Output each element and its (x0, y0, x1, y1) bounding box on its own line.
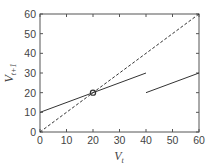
y-tick-label: 10 (24, 106, 36, 118)
map-solid-line (40, 73, 146, 112)
y-axis-ticks: 0102030405060 (24, 8, 199, 138)
x-tick-label: 40 (140, 134, 152, 146)
x-axis-label: Vt (114, 149, 124, 165)
chart-canvas: 0102030405060 0102030405060 Vt Vt+1 (0, 0, 208, 166)
y-tick-label: 50 (24, 28, 36, 40)
y-tick-label: 0 (30, 126, 36, 138)
y-axis-label: Vt+1 (2, 64, 18, 83)
y-tick-label: 60 (24, 8, 36, 20)
x-tick-label: 10 (61, 134, 73, 146)
x-tick-label: 30 (114, 134, 126, 146)
map-solid-line (146, 73, 199, 93)
x-tick-label: 0 (37, 134, 43, 146)
y-tick-label: 30 (24, 67, 36, 79)
x-tick-label: 60 (193, 134, 205, 146)
identity-dashed-line (40, 14, 199, 132)
y-tick-label: 20 (24, 87, 36, 99)
y-tick-label: 40 (24, 47, 36, 59)
plot-frame (40, 14, 199, 132)
x-tick-label: 50 (167, 134, 179, 146)
data-series (40, 14, 199, 132)
x-tick-label: 20 (87, 134, 99, 146)
